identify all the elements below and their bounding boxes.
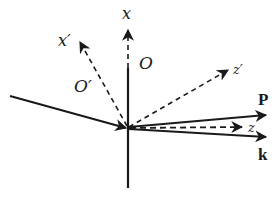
- z-prime-axis-label: z′: [232, 62, 243, 77]
- z-prime-axis: [129, 70, 228, 127]
- vector-k: [129, 129, 266, 137]
- z-axis: [130, 127, 242, 128]
- vector-p-label: P: [258, 90, 268, 109]
- vector-p: [129, 115, 266, 127]
- vector-k-label: k: [258, 145, 268, 164]
- coordinate-diagram: x x′ O O′ z′ z P k: [0, 0, 276, 199]
- x-axis-label: x: [122, 4, 131, 23]
- x-prime-axis-label: x′: [58, 31, 71, 50]
- frame-o-label: O: [139, 53, 153, 73]
- incident-ray: [10, 96, 126, 128]
- z-axis-label: z: [247, 120, 255, 135]
- frame-o-prime-label: O′: [74, 76, 92, 96]
